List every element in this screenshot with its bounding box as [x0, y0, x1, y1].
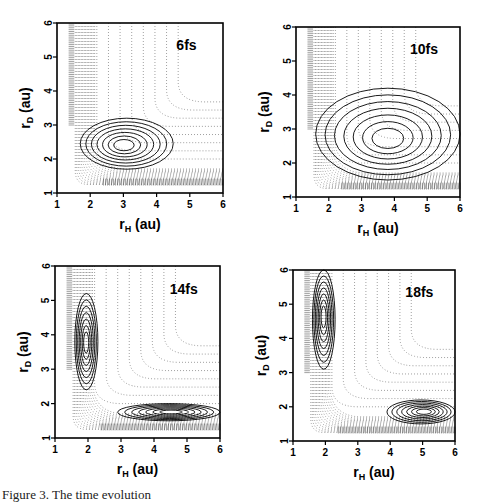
x-tick-label: 4 [387, 447, 393, 458]
x-tick-label: 1 [293, 203, 299, 214]
y-tick-label: 2 [43, 156, 54, 162]
plot-panel-18fs: 123456123456rH (au)rD (au)18fs [253, 267, 458, 482]
y-tick-label: 4 [41, 332, 52, 338]
y-tick-label: 2 [41, 400, 52, 406]
y-axis-label: rD (au) [15, 331, 33, 373]
x-tick-label: 2 [323, 447, 329, 458]
y-tick-label: 2 [279, 404, 290, 410]
y-axis-label: rD (au) [253, 335, 271, 377]
potential-contours [75, 23, 223, 185]
y-tick-label: 4 [43, 88, 54, 94]
y-axis-label: rD (au) [256, 91, 274, 133]
y-tick-label: 5 [282, 58, 293, 64]
y-tick-label: 6 [279, 267, 290, 273]
x-tick-label: 3 [121, 199, 127, 210]
x-tick-label: 3 [359, 203, 365, 214]
x-tick-label: 4 [151, 444, 157, 455]
x-tick-label: 4 [154, 199, 160, 210]
y-tick-label: 5 [43, 54, 54, 60]
time-label: 18fs [405, 284, 433, 300]
plot-panel-14fs: 123456123456rH (au)rD (au)14fs [15, 263, 223, 479]
x-tick-label: 6 [220, 199, 226, 210]
x-tick-label: 1 [290, 447, 296, 458]
y-tick-label: 4 [279, 335, 290, 341]
x-tick-label: 1 [54, 199, 60, 210]
time-label: 10fs [410, 41, 438, 57]
y-tick-label: 3 [282, 126, 293, 132]
wavepacket-contours [312, 270, 455, 424]
y-tick-label: 3 [43, 122, 54, 128]
y-tick-label: 6 [43, 20, 54, 26]
plot-panel-6fs: 123456123456rH (au)rD (au)6fs [17, 20, 226, 234]
wavepacket-contours [80, 118, 173, 169]
x-tick-label: 3 [118, 444, 124, 455]
y-tick-label: 5 [279, 301, 290, 307]
x-tick-label: 1 [52, 444, 58, 455]
x-tick-label: 5 [420, 447, 426, 458]
y-tick-label: 1 [41, 435, 52, 441]
x-tick-label: 2 [326, 203, 332, 214]
x-tick-label: 4 [392, 203, 398, 214]
y-axis-label: rD (au) [17, 87, 35, 129]
y-tick-label: 1 [279, 438, 290, 444]
x-tick-label: 5 [184, 444, 190, 455]
x-tick-label: 6 [217, 444, 223, 455]
figure-caption: Figure 3. The time evolution [2, 487, 151, 503]
time-label: 14fs [170, 281, 198, 297]
wavepacket-contours [316, 88, 460, 180]
y-tick-label: 3 [41, 366, 52, 372]
y-tick-label: 3 [279, 369, 290, 375]
wavepacket-contours [75, 294, 220, 421]
x-tick-label: 2 [87, 199, 93, 210]
x-axis-label: rH (au) [117, 461, 159, 479]
y-tick-label: 1 [282, 194, 293, 200]
x-tick-label: 5 [187, 199, 193, 210]
time-label: 6fs [176, 37, 196, 53]
x-tick-label: 3 [355, 447, 361, 458]
x-tick-label: 6 [457, 203, 463, 214]
y-tick-label: 2 [282, 160, 293, 166]
y-tick-label: 6 [282, 24, 293, 30]
y-tick-label: 5 [41, 297, 52, 303]
x-axis-label: rH (au) [119, 216, 161, 234]
plot-panel-10fs: 123456123456rH (au)rD (au)10fs [256, 24, 463, 238]
x-axis-label: rH (au) [357, 220, 399, 238]
x-tick-label: 5 [424, 203, 430, 214]
x-axis-label: rH (au) [353, 464, 395, 482]
x-tick-label: 6 [452, 447, 458, 458]
x-tick-label: 2 [85, 444, 91, 455]
y-tick-label: 4 [282, 92, 293, 98]
y-tick-label: 6 [41, 263, 52, 269]
y-tick-label: 1 [43, 190, 54, 196]
